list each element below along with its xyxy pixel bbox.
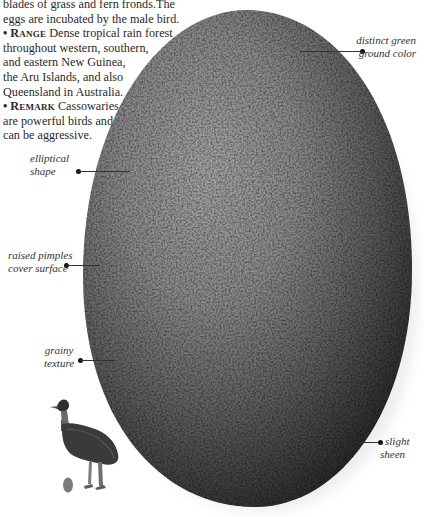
egg-illustration: distinct green ground color elliptical s… [0,0,424,517]
leader-line [78,171,130,172]
annotation-elliptical: elliptical shape [30,152,72,177]
cassowary-bird-icon [40,398,130,503]
leader-line [66,265,100,266]
annotation-grainy: grainy texture [44,344,74,369]
annotation-raised-pimples: raised pimples cover surface [8,249,72,274]
annotation-distinct-green: distinct green ground color [351,34,416,59]
leader-line [358,442,380,443]
annotation-sheen: slight sheen [380,435,409,460]
leader-line [80,360,114,361]
